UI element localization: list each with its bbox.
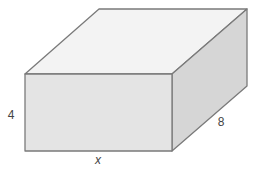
rectangular-prism-diagram: 4 8 x bbox=[0, 0, 257, 176]
depth-label: 8 bbox=[218, 115, 225, 129]
width-label: x bbox=[94, 153, 102, 167]
front-face bbox=[25, 74, 172, 151]
height-label: 4 bbox=[8, 108, 15, 122]
